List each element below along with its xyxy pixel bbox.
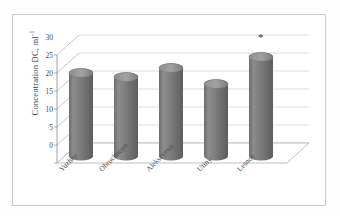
bar-lesnoy[interactable] bbox=[249, 53, 273, 161]
y-axis-line bbox=[54, 55, 57, 163]
chart-frame: Concentration DC, ml-1 30 25 20 15 10 5 … bbox=[12, 14, 326, 206]
chart-screenshot: Concentration DC, ml-1 30 25 20 15 10 5 … bbox=[0, 0, 340, 216]
gridlines bbox=[79, 35, 309, 143]
significance-star-annotation: * bbox=[258, 33, 264, 41]
chart-canvas bbox=[13, 15, 325, 205]
bar-utiny[interactable] bbox=[204, 80, 228, 161]
bar-yuzhny[interactable] bbox=[69, 69, 93, 161]
plot-area: Concentration DC, ml-1 30 25 20 15 10 5 … bbox=[13, 15, 325, 205]
